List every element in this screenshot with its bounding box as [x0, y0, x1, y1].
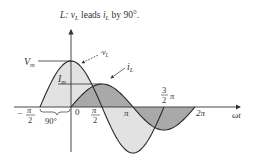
- svg-text:2: 2: [162, 95, 166, 105]
- x-axis-label-wt: ωt: [232, 110, 241, 120]
- il-curve-label: iL: [127, 61, 134, 73]
- tick-zero: 0: [75, 107, 80, 117]
- svg-text:3: 3: [162, 85, 166, 95]
- tick-pi: π: [124, 108, 129, 118]
- phase-diagram: L: vL leads iL by 90°. Vm Im ·vL iL − π …: [0, 0, 255, 165]
- svg-text:−: −: [17, 108, 22, 118]
- tick-pi-over-2: π 2: [91, 105, 100, 125]
- tick-3-over-2-pi: 3 2 π: [161, 85, 175, 105]
- vl-pointer-arrow: [82, 55, 98, 63]
- il-pointer-arrow: [111, 68, 125, 78]
- tick-neg-pi-over-2: − π 2: [17, 105, 35, 125]
- svg-text:π: π: [92, 105, 97, 115]
- phase-brace: [40, 109, 70, 115]
- diagram-title: L: vL leads iL by 90°.: [59, 10, 139, 21]
- vm-label: Vm: [24, 56, 35, 68]
- phase-90-label: 90°: [45, 116, 57, 126]
- svg-text:2: 2: [28, 115, 32, 125]
- vl-curve-label: ·vL: [100, 48, 109, 58]
- tick-2pi: 2π: [196, 108, 206, 118]
- svg-text:π: π: [27, 105, 32, 115]
- svg-text:2: 2: [93, 115, 97, 125]
- svg-text:π: π: [170, 91, 175, 101]
